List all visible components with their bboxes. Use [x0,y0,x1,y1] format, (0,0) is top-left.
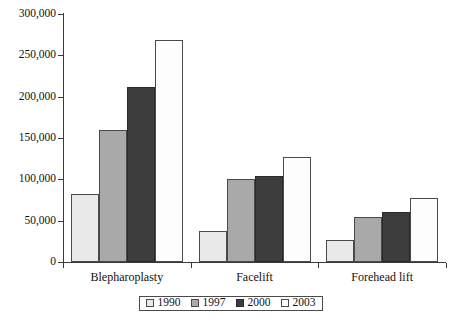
y-axis-tick [58,221,64,222]
bar-2003-blepharoplasty [155,40,183,262]
chart-legend: 1990199720002003 [139,296,323,311]
bar-1990-blepharoplasty [71,194,99,262]
y-axis-tick [58,138,64,139]
x-axis-category-label: Blepharoplasty [63,270,191,284]
bar-2000-blepharoplasty [127,87,155,262]
bar-group [71,14,183,262]
bar-group-bars [199,14,311,262]
legend-item-1997[interactable]: 1997 [191,297,226,309]
y-axis-tick-label: 50,000 [0,215,56,227]
bar-group [326,14,438,262]
y-axis-tick [58,55,64,56]
legend-item-2000[interactable]: 2000 [236,297,271,309]
bar-1997-blepharoplasty [99,130,127,262]
x-axis-tick [63,263,64,268]
bar-2003-forehead-lift [410,198,438,262]
x-axis-tick [446,263,447,268]
y-axis-tick-label-text: 0 [2,256,56,268]
legend-swatch-icon [236,299,244,307]
bar-chart: 050,000100,000150,000200,000250,000300,0… [0,0,461,322]
y-axis-tick-label: 200,000 [0,91,56,103]
legend-label: 2003 [293,297,316,309]
y-axis-tick-label-text: 100,000 [2,173,56,185]
y-axis-tick [58,179,64,180]
x-axis-category-label: Facelift [191,270,319,284]
legend-item-1990[interactable]: 1990 [146,297,181,309]
y-axis-tick-label: 0 [0,256,56,268]
x-axis-category-label: Forehead lift [318,270,446,284]
legend-swatch-icon [191,299,199,307]
y-axis-tick-label-text: 250,000 [2,49,56,61]
legend-swatch-icon [281,299,289,307]
y-axis-tick-label-text: 300,000 [2,8,56,20]
y-axis-tick [58,97,64,98]
x-axis-tick [318,263,319,268]
legend-item-2003[interactable]: 2003 [281,297,316,309]
legend-label: 1990 [158,297,181,309]
bar-1997-forehead-lift [354,217,382,262]
bar-1990-forehead-lift [326,240,354,262]
legend-label: 2000 [248,297,271,309]
bar-group-bars [71,14,183,262]
bar-2000-forehead-lift [382,212,410,262]
bar-1990-facelift [199,231,227,262]
y-axis-tick-label: 150,000 [0,132,56,144]
y-axis-tick-label: 250,000 [0,49,56,61]
y-axis-tick-label-text: 50,000 [2,215,56,227]
bar-1997-facelift [227,179,255,262]
bar-group-bars [326,14,438,262]
bar-2003-facelift [283,157,311,262]
bar-2000-facelift [255,176,283,262]
y-axis-tick-label-text: 200,000 [2,91,56,103]
y-axis-tick-label: 300,000 [0,8,56,20]
x-axis-line [63,262,446,263]
y-axis-tick-label-text: 150,000 [2,132,56,144]
legend-swatch-icon [146,299,154,307]
bar-group [199,14,311,262]
y-axis-tick-label: 100,000 [0,173,56,185]
y-axis-tick [58,14,64,15]
legend-label: 1997 [203,297,226,309]
x-axis-tick [191,263,192,268]
